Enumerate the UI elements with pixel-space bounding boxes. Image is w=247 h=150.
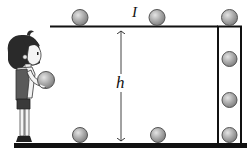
ball-icon (222, 128, 237, 143)
height-label: h (115, 74, 126, 92)
girl-figure (8, 31, 55, 142)
ball-icon (151, 128, 166, 143)
shelf-label: I (132, 4, 137, 21)
ball-icon (149, 10, 165, 26)
ball-icon (72, 10, 88, 26)
ball-icon (222, 10, 238, 26)
ball-icon (222, 52, 237, 67)
ball-icon (73, 128, 88, 143)
floor (14, 143, 247, 148)
ball-icon (222, 93, 237, 108)
